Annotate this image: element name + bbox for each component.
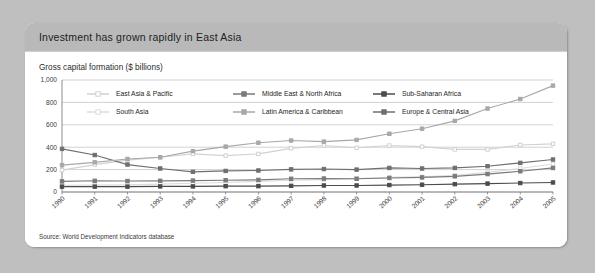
legend-marker <box>96 92 100 96</box>
data-point-marker <box>126 185 129 188</box>
data-point-marker <box>420 176 423 179</box>
x-axis-tick-label: 1995 <box>214 194 230 209</box>
data-point-marker <box>486 107 489 110</box>
legend-label: Sub-Saharan Africa <box>402 90 461 97</box>
data-point-marker <box>257 152 260 155</box>
data-point-marker <box>519 143 522 146</box>
data-point-marker <box>388 144 391 147</box>
x-axis-tick-label: 2002 <box>443 194 459 209</box>
data-point-marker <box>60 163 63 166</box>
data-point-marker <box>159 167 162 170</box>
data-point-marker <box>257 184 260 187</box>
data-point-marker <box>159 156 162 159</box>
chart-axis-title: Gross capital formation ($ billions) <box>39 63 163 72</box>
screenshot-root: Investment has grown rapidly in East Asi… <box>0 0 595 273</box>
data-point-marker <box>191 185 194 188</box>
legend-item[interactable]: Middle East & North Africa <box>233 90 342 97</box>
data-point-marker <box>322 144 325 147</box>
data-point-marker <box>126 157 129 160</box>
data-point-marker <box>257 178 260 181</box>
series-line-3 <box>62 86 553 166</box>
legend-item[interactable]: Latin America & Caribbean <box>233 108 343 115</box>
data-point-marker <box>453 166 456 169</box>
data-point-marker <box>551 162 554 165</box>
x-axis-tick-label: 1997 <box>279 194 295 209</box>
data-point-marker <box>322 184 325 187</box>
data-point-marker <box>388 166 391 169</box>
data-point-marker <box>420 127 423 130</box>
chart-source-note: Source: World Development Indicators dat… <box>39 233 174 240</box>
series-line-2 <box>62 168 553 181</box>
x-axis-tick-label: 1990 <box>50 194 66 209</box>
data-point-marker <box>355 177 358 180</box>
y-axis-tick-label: 200 <box>46 166 57 173</box>
data-point-marker <box>551 166 554 169</box>
data-point-marker <box>453 175 456 178</box>
x-axis-tick-label: 1996 <box>247 194 263 209</box>
data-point-marker <box>93 185 96 188</box>
data-point-marker <box>224 169 227 172</box>
data-point-marker <box>322 167 325 170</box>
page-title: Investment has grown rapidly in East Asi… <box>39 31 242 43</box>
data-point-marker <box>519 181 522 184</box>
x-axis-tick-label: 2001 <box>410 194 426 209</box>
data-point-marker <box>486 172 489 175</box>
data-point-marker <box>519 161 522 164</box>
data-point-marker <box>93 179 96 182</box>
y-axis-tick-label: 800 <box>46 99 57 106</box>
data-point-marker <box>551 142 554 145</box>
data-point-marker <box>453 119 456 122</box>
data-point-marker <box>60 147 63 150</box>
legend-marker <box>382 110 386 114</box>
data-point-marker <box>126 163 129 166</box>
data-point-marker <box>93 161 96 164</box>
data-point-marker <box>388 183 391 186</box>
data-point-marker <box>486 182 489 185</box>
data-point-marker <box>453 148 456 151</box>
x-axis-tick-label: 1999 <box>345 194 361 209</box>
data-point-marker <box>257 169 260 172</box>
data-point-marker <box>551 158 554 161</box>
legend-item[interactable]: Sub-Saharan Africa <box>373 90 461 97</box>
data-point-marker <box>322 177 325 180</box>
y-axis-tick-label: 1,000 <box>40 76 57 83</box>
data-point-marker <box>289 177 292 180</box>
card-header: Investment has grown rapidly in East Asi… <box>25 23 567 52</box>
legend-marker <box>96 110 100 114</box>
x-axis-tick-label: 1991 <box>83 194 99 209</box>
data-point-marker <box>355 146 358 149</box>
data-point-marker <box>355 184 358 187</box>
x-axis-tick-label: 1992 <box>116 194 132 209</box>
data-point-marker <box>60 185 63 188</box>
x-axis-tick-label: 2003 <box>476 194 492 209</box>
y-axis-tick-label: 600 <box>46 121 57 128</box>
data-point-marker <box>289 168 292 171</box>
legend-item[interactable]: Europe & Central Asia <box>373 108 469 116</box>
data-point-marker <box>224 154 227 157</box>
data-point-marker <box>388 176 391 179</box>
legend-label: East Asia & Pacific <box>116 90 173 97</box>
legend-label: Latin America & Caribbean <box>262 108 343 115</box>
chart-card: Investment has grown rapidly in East Asi… <box>25 23 567 247</box>
legend-item[interactable]: East Asia & Pacific <box>87 90 173 97</box>
legend-marker <box>242 92 246 96</box>
data-point-marker <box>355 168 358 171</box>
data-point-marker <box>159 179 162 182</box>
data-point-marker <box>420 183 423 186</box>
data-point-marker <box>519 170 522 173</box>
data-point-marker <box>355 138 358 141</box>
legend-item[interactable]: South Asia <box>87 108 149 115</box>
legend-label: South Asia <box>116 108 149 115</box>
data-point-marker <box>486 165 489 168</box>
y-axis-tick-label: 0 <box>53 188 57 195</box>
x-axis-tick-label: 1994 <box>181 194 197 209</box>
data-point-marker <box>519 97 522 100</box>
data-point-marker <box>388 132 391 135</box>
x-axis-tick-label: 2005 <box>541 194 557 209</box>
x-axis-tick-label: 2000 <box>378 194 394 209</box>
data-point-marker <box>289 147 292 150</box>
x-axis-tick-label: 1993 <box>148 194 164 209</box>
legend-label: Middle East & North Africa <box>262 90 342 97</box>
data-point-marker <box>289 139 292 142</box>
data-point-marker <box>289 184 292 187</box>
